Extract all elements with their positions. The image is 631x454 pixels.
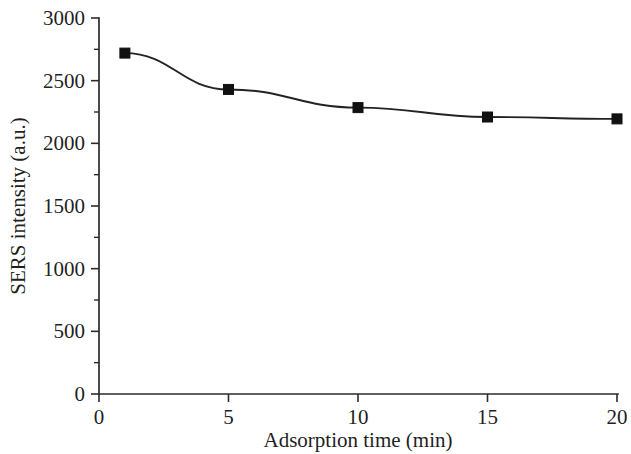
y-axis-title: SERS intensity (a.u.) — [6, 117, 30, 294]
x-tick-label: 20 — [607, 405, 628, 429]
chart-background — [0, 0, 631, 454]
x-tick-label: 10 — [348, 405, 369, 429]
x-tick-label: 15 — [477, 405, 498, 429]
x-tick-label: 0 — [94, 405, 105, 429]
data-point-marker — [483, 112, 493, 122]
data-point-marker — [120, 48, 130, 58]
y-tick-label: 2500 — [43, 69, 85, 93]
y-tick-label: 2000 — [43, 131, 85, 155]
y-tick-label: 0 — [75, 382, 86, 406]
x-axis-title: Adsorption time (min) — [264, 428, 453, 452]
y-tick-label: 1500 — [43, 194, 85, 218]
data-point-marker — [612, 114, 622, 124]
sers-intensity-line-chart: 050010001500200025003000 05101520 Adsorp… — [0, 0, 631, 454]
x-tick-label: 5 — [223, 405, 234, 429]
data-point-marker — [224, 84, 234, 94]
data-point-marker — [353, 103, 363, 113]
y-tick-label: 3000 — [43, 6, 85, 30]
y-tick-label: 1000 — [43, 257, 85, 281]
chart-figure: 050010001500200025003000 05101520 Adsorp… — [0, 0, 631, 454]
y-tick-label: 500 — [54, 319, 86, 343]
